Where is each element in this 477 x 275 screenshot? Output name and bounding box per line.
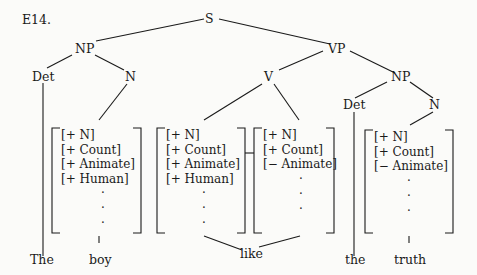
node-np-subject: NP xyxy=(75,42,94,56)
ellipsis-dot: · xyxy=(374,174,444,189)
feature-set-like-subject: [+ N] [+ Count] [+ Animate] [+ Human] · … xyxy=(166,128,238,231)
ellipsis-dot: · xyxy=(374,204,444,219)
ellipsis-dot: · xyxy=(263,172,329,187)
word-the-object: the xyxy=(345,253,365,267)
ellipsis-dot: · xyxy=(263,187,329,202)
feature: [− Animate] xyxy=(263,157,329,172)
node-np-object: NP xyxy=(391,70,410,84)
node-v: V xyxy=(264,70,273,84)
node-vp: VP xyxy=(328,42,345,56)
feature: [+ N] xyxy=(61,128,133,143)
node-n-subject: N xyxy=(125,70,136,84)
feature: [+ N] xyxy=(374,130,444,145)
word-truth: truth xyxy=(394,253,426,267)
feature: [+ Animate] xyxy=(61,157,133,172)
feature: [+ Count] xyxy=(263,143,329,158)
feature: [+ Human] xyxy=(166,172,238,187)
ellipsis-dot: · xyxy=(374,189,444,204)
word-boy: boy xyxy=(89,253,112,267)
node-n-object: N xyxy=(429,98,440,112)
node-s: S xyxy=(205,12,214,26)
feature-set-truth: [+ N] [+ Count] [− Animate] · · · xyxy=(374,130,444,219)
word-the-subject: The xyxy=(30,253,54,267)
node-det-subject: Det xyxy=(32,70,54,84)
ellipsis-dot: · xyxy=(263,202,329,217)
feature: [+ N] xyxy=(263,128,329,143)
feature: [+ Count] xyxy=(61,143,133,158)
ellipsis-dot: · xyxy=(61,201,133,216)
feature: [− Animate] xyxy=(374,159,444,174)
feature-set-like-object: [+ N] [+ Count] [− Animate] · · · xyxy=(263,128,329,217)
ellipsis-dot: · xyxy=(61,216,133,231)
ellipsis-dot: · xyxy=(166,216,238,231)
feature: [+ Count] xyxy=(374,145,444,160)
ellipsis-dot: · xyxy=(166,186,238,201)
feature: [+ N] xyxy=(166,128,238,143)
ellipsis-dot: · xyxy=(61,186,133,201)
feature-set-boy: [+ N] [+ Count] [+ Animate] [+ Human] · … xyxy=(61,128,133,231)
word-like: like xyxy=(240,247,263,261)
example-label: E14. xyxy=(22,13,51,27)
ellipsis-dot: · xyxy=(166,201,238,216)
node-det-object: Det xyxy=(343,98,365,112)
feature: [+ Animate] xyxy=(166,157,238,172)
feature: [+ Count] xyxy=(166,143,238,158)
feature: [+ Human] xyxy=(61,172,133,187)
